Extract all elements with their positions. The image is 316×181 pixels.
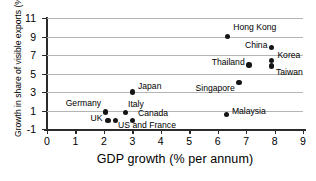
x-tick-label: 5 xyxy=(179,136,199,147)
x-tick-label: 1 xyxy=(65,136,85,147)
x-tick-label: 7 xyxy=(236,136,256,147)
x-tick-label: 6 xyxy=(208,136,228,147)
data-point-marker xyxy=(225,34,230,39)
y-tick-mark xyxy=(42,111,47,112)
data-point-label: Thailand xyxy=(0,58,245,67)
data-point-marker xyxy=(103,109,108,114)
x-tick-mark xyxy=(218,130,219,134)
x-tick-mark xyxy=(303,130,304,134)
gridline xyxy=(47,18,303,19)
data-point-label: Singapore xyxy=(0,84,235,93)
x-tick-label: 9 xyxy=(293,136,313,147)
x-tick-label: 4 xyxy=(151,136,171,147)
y-tick-mark xyxy=(42,74,47,75)
data-point-label: Japan xyxy=(138,82,161,91)
x-tick-label: 8 xyxy=(265,136,285,147)
x-axis-title: GDP growth (% per annum) xyxy=(47,152,303,166)
x-tick-label: 0 xyxy=(37,136,57,147)
data-point-marker xyxy=(269,45,274,50)
gridline xyxy=(47,55,303,56)
data-point-label: Korea xyxy=(277,51,300,60)
x-tick-mark xyxy=(132,130,133,134)
data-point-label: Hong Kong xyxy=(233,23,276,32)
x-tick-label: 3 xyxy=(122,136,142,147)
scatter-chart: 1197531-1 0123456789 Hong KongChinaKorea… xyxy=(0,0,316,181)
y-tick-mark xyxy=(42,55,47,56)
x-tick-label: 2 xyxy=(94,136,114,147)
data-point-marker xyxy=(224,112,229,117)
y-tick-mark xyxy=(42,37,47,38)
x-tick-mark xyxy=(189,130,190,134)
y-axis-title: Growth in share of visible exports (% p.… xyxy=(13,0,23,137)
data-point-label: Malaysia xyxy=(232,107,266,116)
data-point-marker xyxy=(236,80,241,85)
data-point-marker xyxy=(246,62,251,67)
data-point-label: US and France xyxy=(118,121,176,130)
data-point-label: Canada xyxy=(138,109,168,118)
data-point-label: China xyxy=(0,41,267,50)
y-tick-mark xyxy=(42,18,47,19)
gridline xyxy=(47,74,303,75)
data-point-marker xyxy=(105,118,110,123)
data-point-marker xyxy=(130,89,135,94)
x-tick-mark xyxy=(47,130,48,134)
x-tick-mark xyxy=(104,130,105,134)
x-tick-mark xyxy=(275,130,276,134)
data-point-marker xyxy=(269,63,274,68)
data-point-label: Taiwan xyxy=(276,68,303,77)
gridline xyxy=(47,37,303,38)
x-tick-mark xyxy=(246,130,247,134)
x-tick-mark xyxy=(75,130,76,134)
x-tick-mark xyxy=(161,130,162,134)
data-point-marker xyxy=(123,110,128,115)
